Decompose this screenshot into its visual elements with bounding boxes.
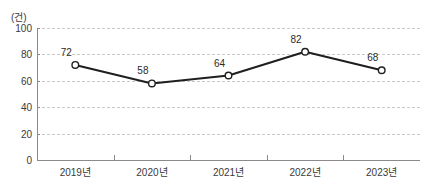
data-point-label: 64: [214, 58, 225, 69]
series-markers: [72, 48, 385, 86]
data-point-label: 68: [367, 52, 378, 63]
data-point-label: 58: [137, 65, 148, 76]
data-point-marker: [302, 48, 309, 55]
line-chart: (건) 020406080100 2019년2020년2021년2022년202…: [0, 0, 426, 186]
data-point-label: 72: [61, 47, 72, 58]
data-point-marker: [72, 62, 79, 69]
data-point-marker: [149, 80, 156, 87]
data-point-label: 82: [291, 34, 302, 45]
data-point-marker: [378, 67, 385, 74]
data-point-marker: [225, 72, 232, 79]
series-graphics: [0, 0, 426, 186]
